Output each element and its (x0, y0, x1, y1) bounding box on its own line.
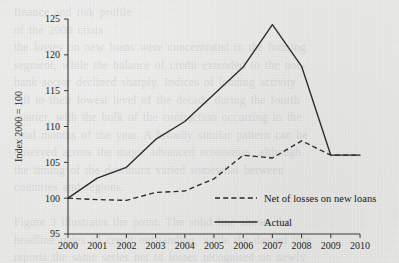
y-axis-tick-label: 95 (50, 228, 60, 239)
legend-label: Net of losses on new loans (264, 193, 376, 204)
line-chart: 9510010511011512012520002001200220032004… (0, 0, 399, 263)
x-axis-tick-label: 2005 (204, 240, 224, 251)
x-axis-tick-label: 2002 (116, 240, 136, 251)
y-axis-tick-label: 115 (45, 85, 60, 96)
x-axis-tick-label: 2004 (175, 240, 195, 251)
y-axis-tick-label: 110 (45, 121, 60, 132)
y-axis-tick-label: 120 (45, 49, 60, 60)
legend-label: Actual (264, 217, 292, 228)
series-line-dashed (68, 141, 360, 200)
chart-figure: finance and risk profile of the 2008 cri… (0, 0, 399, 263)
y-axis-tick-label: 105 (45, 157, 60, 168)
x-axis-tick-label: 2010 (350, 240, 370, 251)
series-line-solid (68, 25, 360, 198)
x-axis-tick-label: 2007 (262, 240, 282, 251)
x-axis-tick-label: 2006 (233, 240, 253, 251)
x-axis-tick-label: 2003 (146, 240, 166, 251)
x-axis-tick-label: 2001 (87, 240, 107, 251)
y-axis-tick-label: 125 (45, 13, 60, 24)
y-axis-tick-label: 100 (45, 193, 60, 204)
x-axis-tick-label: 2009 (321, 240, 341, 251)
y-axis-title: Index 2000 = 100 (13, 91, 24, 162)
x-axis-tick-label: 2000 (58, 240, 78, 251)
x-axis-tick-label: 2008 (292, 240, 312, 251)
